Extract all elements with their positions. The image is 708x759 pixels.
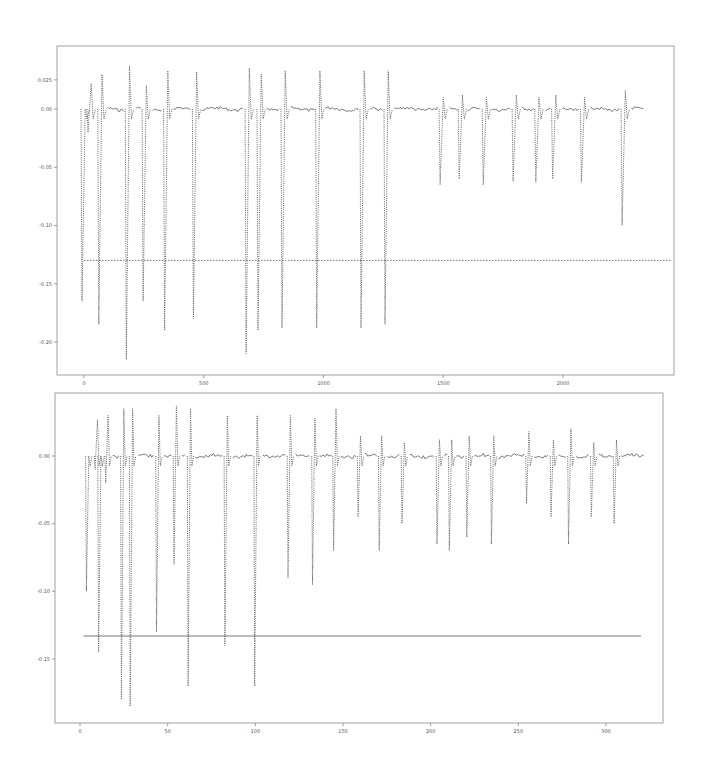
bottom-signal-trace (86, 406, 644, 707)
y-tick-label: -0.10 (39, 222, 52, 228)
spike (224, 415, 230, 645)
spike (312, 418, 318, 584)
spike (287, 415, 293, 577)
spike (94, 420, 100, 470)
spike (192, 72, 200, 319)
spike (378, 436, 384, 551)
y-tick-label: 0.00 (39, 453, 50, 459)
spike (568, 429, 574, 544)
bottom-axes-frame (55, 393, 663, 723)
spike (512, 95, 520, 181)
spike (591, 443, 597, 517)
figure-canvas: 0.0250.00-0.05-0.10-0.15-0.20 0500100015… (0, 0, 708, 759)
y-tick-label: -0.15 (39, 281, 52, 287)
bottom-x-ticks: 050100150200250300 (78, 723, 610, 734)
top-signal-trace (81, 66, 643, 360)
bottom-subplot: 0.00-0.05-0.10-0.15 050100150200250300 (37, 393, 663, 734)
spike (491, 436, 497, 544)
y-tick-label: -0.05 (37, 520, 50, 526)
x-tick-label: 1000 (317, 380, 330, 386)
x-tick-label: 500 (199, 380, 209, 386)
spike (125, 66, 133, 360)
spike (81, 109, 89, 301)
spike (187, 409, 193, 686)
y-tick-label: 0.025 (38, 77, 52, 83)
spike (86, 456, 92, 591)
spike (535, 97, 544, 182)
spike (87, 83, 95, 132)
spike (458, 95, 466, 179)
spike (245, 68, 253, 353)
spike (156, 415, 162, 632)
spike (142, 86, 150, 302)
bottom-y-ticks: 0.00-0.05-0.10-0.15 (37, 453, 55, 662)
spike (449, 440, 455, 551)
spike (98, 456, 104, 652)
y-tick-label: -0.20 (39, 339, 52, 345)
top-y-ticks: 0.0250.00-0.05-0.10-0.15-0.20 (38, 77, 57, 345)
spike (550, 440, 556, 517)
y-tick-label: -0.10 (37, 588, 50, 594)
spike (281, 71, 289, 328)
spike (436, 440, 442, 544)
top-x-ticks: 0500100015002000 (82, 375, 569, 386)
spike (98, 74, 106, 324)
spike (439, 97, 447, 184)
spike (129, 409, 135, 707)
spike (333, 409, 339, 551)
x-tick-label: 250 (514, 728, 524, 734)
y-tick-label: -0.05 (39, 164, 52, 170)
x-tick-label: 150 (338, 728, 348, 734)
spike (360, 71, 368, 328)
baseline-trace (113, 453, 644, 458)
spike (580, 97, 588, 182)
spike (526, 432, 532, 504)
x-tick-label: 0 (78, 728, 81, 734)
spike (121, 409, 127, 700)
spike (613, 440, 619, 524)
spike (316, 71, 324, 328)
x-tick-label: 50 (164, 728, 170, 734)
spike (401, 443, 407, 524)
spike (254, 415, 260, 686)
spike (621, 90, 629, 225)
y-tick-label: 0.00 (41, 106, 52, 112)
spike (384, 71, 392, 325)
spike (164, 71, 172, 331)
baseline-trace (108, 106, 644, 111)
spike (482, 97, 490, 184)
top-axes-frame (57, 46, 674, 375)
x-tick-label: 0 (82, 380, 85, 386)
spike (552, 95, 560, 179)
x-tick-label: 2000 (557, 380, 570, 386)
spike (357, 436, 363, 517)
spike (105, 415, 111, 483)
top-subplot: 0.0250.00-0.05-0.10-0.15-0.20 0500100015… (38, 46, 674, 386)
y-tick-label: -0.15 (37, 656, 50, 662)
spike (257, 74, 265, 330)
x-tick-label: 300 (601, 728, 611, 734)
x-tick-label: 1500 (437, 380, 450, 386)
x-tick-label: 200 (426, 728, 436, 734)
x-tick-label: 100 (251, 728, 261, 734)
spike (173, 406, 179, 564)
spike (466, 436, 472, 538)
